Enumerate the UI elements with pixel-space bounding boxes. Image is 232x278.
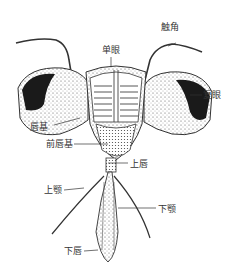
label-anteclypeus: 前唇基 bbox=[46, 139, 73, 149]
label-labrum: 上唇 bbox=[130, 159, 148, 169]
label-antenna: 触角 bbox=[161, 22, 179, 32]
label-maxilla: 下颚 bbox=[158, 204, 176, 214]
insect-head-illustration bbox=[0, 0, 232, 278]
label-ocellus: 单眼 bbox=[102, 45, 120, 55]
label-labium: 下唇 bbox=[64, 246, 82, 256]
label-postclypeus: 唇基 bbox=[30, 122, 48, 132]
label-mandible: 上颚 bbox=[44, 185, 62, 195]
label-compound-eye: 复眼 bbox=[203, 90, 221, 100]
